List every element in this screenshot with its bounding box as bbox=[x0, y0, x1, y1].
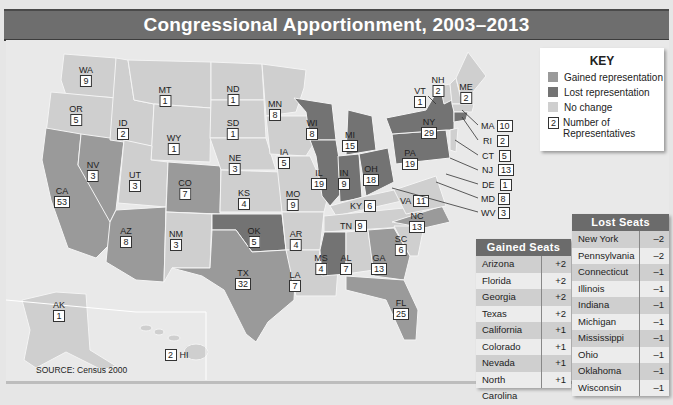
key-item-number: 2 Number of Representatives bbox=[548, 117, 664, 139]
key-item-lost: Lost representation bbox=[548, 87, 664, 98]
lost-seats-table: Lost Seats New York–2 Pennsylvania–2 Con… bbox=[572, 214, 669, 396]
table-row: Texas+2 bbox=[476, 306, 571, 323]
number-box-sample: 2 bbox=[548, 117, 559, 129]
map-key: KEY Gained representation Lost represent… bbox=[540, 48, 664, 151]
table-row: Wisconsin–1 bbox=[572, 380, 669, 397]
key-heading: KEY bbox=[540, 54, 664, 68]
table-row: Michigan–1 bbox=[572, 314, 669, 331]
key-item-no-change: No change bbox=[548, 102, 664, 113]
table-row: Connecticut–1 bbox=[572, 264, 669, 281]
table-row: Pennsylvania–2 bbox=[572, 248, 669, 265]
table-row: Illinois–1 bbox=[572, 281, 669, 298]
source-note: SOURCE: Census 2000 bbox=[36, 365, 127, 375]
table-row: North Carolina+1 bbox=[476, 372, 571, 389]
lost-seats-heading: Lost Seats bbox=[572, 214, 669, 231]
lost-swatch bbox=[548, 87, 558, 97]
gained-seats-table: Gained Seats Arizona+2 Florida+2 Georgia… bbox=[476, 239, 571, 388]
table-row: Florida+2 bbox=[476, 273, 571, 290]
key-item-gained: Gained representation bbox=[548, 72, 664, 83]
table-row: California+1 bbox=[476, 322, 571, 339]
table-row: New York–2 bbox=[572, 231, 669, 248]
gained-swatch bbox=[548, 72, 558, 82]
no-change-swatch bbox=[548, 102, 558, 112]
table-row: Ohio–1 bbox=[572, 347, 669, 364]
table-row: Oklahoma–1 bbox=[572, 363, 669, 380]
table-row: Indiana–1 bbox=[572, 297, 669, 314]
table-row: Mississippi–1 bbox=[572, 330, 669, 347]
table-row: Arizona+2 bbox=[476, 256, 571, 273]
table-row: Georgia+2 bbox=[476, 289, 571, 306]
table-row: Nevada+1 bbox=[476, 355, 571, 372]
gained-seats-heading: Gained Seats bbox=[476, 239, 571, 256]
table-row: Colorado+1 bbox=[476, 339, 571, 356]
